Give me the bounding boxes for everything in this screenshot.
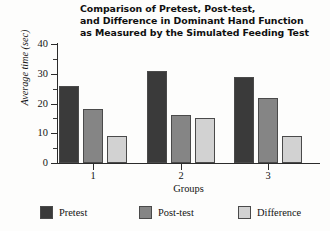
chart-figure: Comparison of Pretest, Post-test, and Di… <box>0 0 330 231</box>
chart-legend: PretestPost-testDifference <box>40 204 312 226</box>
y-tick-label-10: 10 <box>8 128 48 138</box>
x-tick-label-3: 3 <box>253 170 283 181</box>
legend-swatch-icon <box>139 206 152 219</box>
plot-area <box>57 44 320 163</box>
bar-post-test-group-2 <box>171 115 191 163</box>
bar-difference-group-1 <box>107 136 127 163</box>
bar-difference-group-2 <box>195 118 215 163</box>
bar-difference-group-3 <box>282 136 302 163</box>
legend-label: Difference <box>257 207 301 218</box>
x-axis-line <box>57 163 320 164</box>
legend-swatch-icon <box>238 206 251 219</box>
x-axis-title: Groups <box>57 183 320 194</box>
y-tick-label-0: 0 <box>8 158 48 168</box>
legend-label: Pretest <box>59 207 87 218</box>
legend-item-post-test[interactable]: Post-test <box>139 204 194 220</box>
bar-pretest-group-2 <box>147 71 167 163</box>
bar-post-test-group-3 <box>258 98 278 163</box>
bar-pretest-group-3 <box>234 77 254 163</box>
chart-title-line-2: and Difference in Dominant Hand Function <box>80 15 326 27</box>
legend-item-difference[interactable]: Difference <box>238 204 301 220</box>
y-tick-0 <box>51 163 57 164</box>
bar-pretest-group-1 <box>59 86 79 163</box>
y-tick-label-30: 30 <box>8 69 48 79</box>
y-tick-label-20: 20 <box>8 99 48 109</box>
chart-title-line-3: as Measured by the Simulated Feeding Tes… <box>80 27 326 39</box>
legend-swatch-icon <box>40 206 53 219</box>
chart-title: Comparison of Pretest, Post-test, and Di… <box>80 3 326 39</box>
bar-post-test-group-1 <box>83 109 103 163</box>
legend-item-pretest[interactable]: Pretest <box>40 204 87 220</box>
chart-title-line-1: Comparison of Pretest, Post-test, <box>80 3 326 15</box>
x-tick-label-1: 1 <box>78 170 108 181</box>
x-tick-label-2: 2 <box>166 170 196 181</box>
legend-label: Post-test <box>158 207 194 218</box>
y-tick-label-40: 40 <box>8 39 48 49</box>
